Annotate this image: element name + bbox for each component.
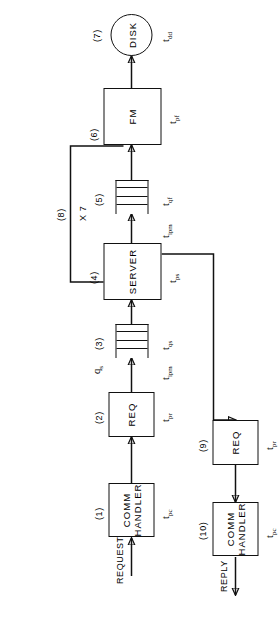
node-queue-3-time: tqs: [160, 341, 174, 350]
node-queue-5[interactable]: [116, 180, 149, 214]
node-comm-handler-1-tag: (1): [94, 507, 104, 520]
node-server-4-tag: (4): [89, 271, 99, 284]
node-fm-6[interactable]: FM: [104, 88, 162, 145]
label-feedback-multiplier: X 7: [78, 206, 88, 221]
label-queue-length-qs: qs: [91, 366, 105, 374]
node-comm-handler-1-line2: HANDLER: [132, 483, 143, 536]
node-server-4-label: SERVER: [127, 249, 138, 295]
node-req-9-tag: (9): [198, 439, 208, 452]
queue-3-slot-3: [117, 332, 148, 333]
node-disk-7-label: DISK: [126, 22, 137, 48]
node-comm-handler-10-line1: COMM: [224, 512, 235, 546]
node-req-9-label: REQ: [230, 431, 241, 455]
node-comm-handler-1-time: tpc: [160, 509, 174, 519]
node-queue-3-tag: (3): [94, 337, 104, 350]
node-queue-5-tag: (5): [94, 193, 104, 206]
node-req-2-tag: (2): [94, 411, 104, 424]
label-feedback-tag-8: (8): [56, 208, 66, 221]
label-t-ipm-request: tipm: [160, 366, 174, 380]
node-server-4-time: tps: [167, 274, 181, 283]
node-queue-3[interactable]: [116, 324, 149, 358]
node-fm-6-tag: (6): [89, 128, 99, 141]
node-req-2-time: tpr: [160, 413, 174, 422]
node-req-2-label: REQ: [126, 403, 137, 427]
node-comm-handler-10-tag: (10): [198, 522, 208, 540]
node-disk-7-tag: (7): [92, 29, 102, 42]
queue-3-slot-2: [117, 340, 148, 341]
node-disk-7[interactable]: DISK: [111, 14, 153, 56]
node-disk-7-time: tdd: [160, 32, 174, 42]
diagram-root: COMM HANDLER (1) tpc REQ (2) tpr tipm qs…: [36, 0, 250, 620]
node-req-9[interactable]: REQ: [213, 420, 250, 465]
node-fm-6-label: FM: [127, 109, 138, 125]
diagram-canvas: COMM HANDLER (1) tpc REQ (2) tpr tipm qs…: [36, 0, 250, 620]
node-req-2[interactable]: REQ: [109, 392, 155, 437]
node-comm-handler-10-line2: HANDLER: [236, 502, 247, 555]
node-comm-handler-1-line1: COMM: [120, 493, 131, 527]
queue-5-slot-1: [117, 205, 148, 206]
queue-5-slot-3: [117, 188, 148, 189]
node-comm-handler-1[interactable]: COMM HANDLER: [109, 483, 155, 537]
node-comm-handler-10[interactable]: COMM HANDLER: [213, 502, 250, 556]
node-fm-6-time: tpf: [167, 115, 181, 124]
queue-3-slot-1: [117, 349, 148, 350]
node-queue-5-time: tqf: [160, 197, 174, 206]
label-request: REQUEST: [115, 536, 125, 584]
node-server-4[interactable]: SERVER: [104, 243, 162, 300]
queue-5-slot-2: [117, 196, 148, 197]
label-t-ipm-file: tipm: [160, 224, 174, 238]
label-reply: REPLY: [219, 560, 229, 592]
